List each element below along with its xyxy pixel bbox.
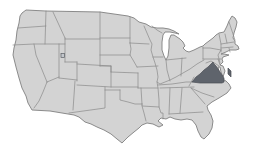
us-map[interactable] — [0, 0, 257, 156]
great-salt-lake-icon — [61, 54, 65, 58]
screenshot-root — [0, 0, 257, 156]
us-map-figure — [0, 0, 257, 156]
state-virginia-eastern-shore-highlight[interactable] — [228, 68, 231, 77]
